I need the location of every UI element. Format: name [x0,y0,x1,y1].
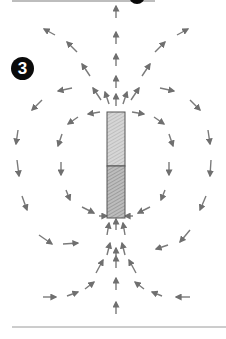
field-arrow-icon [58,88,72,91]
field-arrow-icon [39,235,52,244]
field-arrow-icon [142,64,150,76]
field-arrow-icon [17,160,19,176]
field-arrow-icon [107,223,109,235]
field-arrow-icon [132,112,144,114]
field-arrow-icon [135,282,144,289]
field-arrow-icon [161,190,165,200]
field-arrow-icon [122,243,125,255]
field-arrow-icon [16,130,18,144]
field-arrow-icon [85,282,94,289]
field-arrow-icon [32,100,42,110]
field-arrow-icon [156,245,168,249]
field-arrow-icon [190,100,200,110]
field-arrow-icon [82,64,90,76]
field-arrow-icon [88,112,100,114]
field-arrow-icon [152,292,162,296]
field-arrow-icon [107,243,110,255]
step-number-badge: 3 [11,57,34,80]
field-arrow-icon [154,117,164,124]
field-arrow-icon [93,88,101,100]
field-arrow-icon [58,134,62,146]
field-arrow-icon [123,92,127,104]
magnet-north-half [107,112,125,166]
field-arrow-icon [67,292,78,296]
field-arrow-icon [208,130,210,144]
field-arrow-icon [155,42,165,52]
field-arrow-icon [180,230,190,242]
field-arrow-icon [210,160,211,176]
field-arrow-icon [169,134,173,146]
field-arrow-icon [67,42,77,52]
field-arrow-icon [123,223,125,235]
magnetic-field-diagram [0,0,226,339]
field-arrow-icon [131,88,139,100]
field-arrow-icon [129,260,136,273]
magnet-south-half [107,166,125,218]
field-arrow-icon [63,243,78,244]
field-arrow-icon [68,117,78,124]
field-arrow-icon [44,29,55,35]
field-arrow-icon [96,260,103,273]
bar-magnet [107,112,125,218]
field-arrow-icon [177,29,188,35]
field-arrow-icon [82,207,94,213]
field-arrow-icon [200,196,206,210]
field-arrow-icon [138,207,150,213]
field-arrow-icon [22,196,27,210]
field-arrow-icon [160,88,174,91]
field-arrow-icon [66,190,70,200]
field-arrow-icon [105,92,109,104]
